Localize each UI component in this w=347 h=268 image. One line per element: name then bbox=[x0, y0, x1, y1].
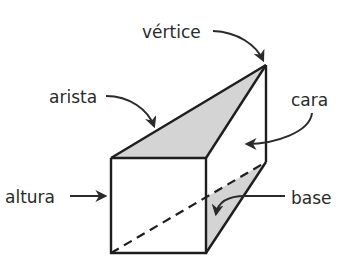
face-arrow-icon bbox=[247, 113, 312, 144]
vertex-label: vértice bbox=[142, 22, 201, 42]
edge-arrow-icon bbox=[106, 96, 154, 126]
vertex-arrow-icon bbox=[213, 31, 263, 60]
height-label: altura bbox=[5, 187, 55, 207]
edge-label: arista bbox=[49, 87, 97, 107]
face-label: cara bbox=[291, 90, 328, 110]
prism-figure: vértice arista cara altura base bbox=[0, 0, 347, 268]
triangular-prism-diagram: vértice arista cara altura base bbox=[0, 0, 347, 268]
base-label: base bbox=[291, 188, 332, 208]
